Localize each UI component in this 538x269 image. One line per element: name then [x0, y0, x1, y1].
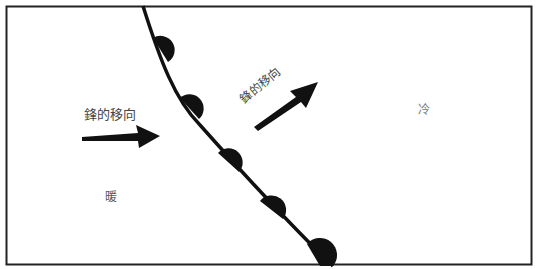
semicircle-icon: [260, 195, 286, 219]
warm-air-label: 暖: [105, 191, 117, 203]
front-movement-label-left: 鋒的移向: [84, 108, 136, 121]
cold-air-label: 冷: [418, 104, 430, 116]
warm-front-diagram: [0, 0, 538, 269]
front-semicircles: [153, 36, 337, 266]
semicircle-icon: [307, 238, 337, 266]
arrow-east-icon: [82, 125, 160, 148]
diagram-frame: [7, 7, 532, 265]
semicircle-icon: [218, 148, 243, 172]
